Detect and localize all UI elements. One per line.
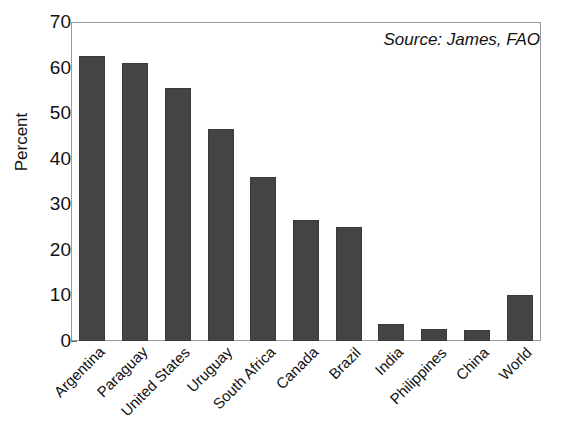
bar — [378, 324, 404, 341]
x-axis-label: Canada — [273, 344, 321, 392]
bar — [336, 227, 362, 341]
bar-series — [71, 22, 541, 341]
y-axis: 010203040506070 — [30, 22, 71, 341]
y-tick-label: 70 — [37, 12, 71, 31]
x-axis-label: India — [372, 344, 406, 378]
source-note: Source: James, FAO — [383, 30, 540, 50]
y-tick-label: 0 — [37, 331, 71, 350]
bar — [293, 220, 319, 341]
bar — [464, 330, 490, 341]
x-axis-label: China — [453, 344, 492, 383]
y-tick-label: 40 — [37, 149, 71, 168]
bar — [165, 88, 191, 341]
chart-figure: 010203040506070 Percent ArgentinaParagua… — [0, 0, 563, 441]
x-axis-label: World — [496, 344, 535, 383]
y-tick-label: 20 — [37, 240, 71, 259]
y-tick-label: 60 — [37, 58, 71, 77]
y-tick-label: 30 — [37, 194, 71, 213]
bar — [507, 295, 533, 341]
bar — [421, 329, 447, 341]
bar — [122, 63, 148, 341]
y-axis-title: Percent — [12, 82, 32, 202]
y-tick-label: 10 — [37, 285, 71, 304]
bar — [208, 129, 234, 341]
y-tick-mark — [71, 341, 77, 342]
bar — [79, 56, 105, 341]
title-remnant — [104, 0, 404, 4]
y-tick-label: 50 — [37, 103, 71, 122]
x-axis-label: Brazil — [326, 344, 364, 382]
bar — [250, 177, 276, 341]
